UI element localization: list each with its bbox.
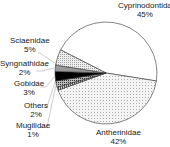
label-cyprinodontida: Cyprinodontida 45% xyxy=(118,1,170,19)
label-name: Others xyxy=(24,101,48,110)
label-others: Others 2% xyxy=(24,101,48,119)
label-name: Gobidae xyxy=(14,79,44,88)
label-antherinidae: Antherinidae 42% xyxy=(96,128,141,146)
label-pct: 5% xyxy=(10,45,50,54)
label-name: Mugilidae xyxy=(16,121,50,130)
label-sciaenidae: Sciaenidae 5% xyxy=(10,36,50,54)
label-gobidae: Gobidae 3% xyxy=(14,79,44,97)
label-name: Antherinidae xyxy=(96,128,141,137)
label-pct: 42% xyxy=(96,137,141,146)
label-pct: 2% xyxy=(0,68,49,77)
label-name: Cyprinodontida xyxy=(118,1,170,10)
label-pct: 2% xyxy=(24,110,48,119)
label-name: Syngnathidae xyxy=(0,59,49,68)
label-name: Sciaenidae xyxy=(10,36,50,45)
label-pct: 45% xyxy=(118,10,170,19)
label-pct: 1% xyxy=(16,130,50,139)
label-mugilidae: Mugilidae 1% xyxy=(16,121,50,139)
label-pct: 3% xyxy=(14,88,44,97)
label-syngnathidae: Syngnathidae 2% xyxy=(0,59,49,77)
